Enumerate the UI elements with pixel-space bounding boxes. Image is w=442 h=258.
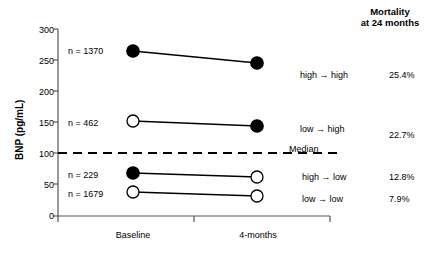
marker-high-low-followup bbox=[251, 171, 263, 183]
y-tick-marks bbox=[53, 29, 58, 216]
line-low-low bbox=[133, 192, 257, 196]
marker-high-high-followup bbox=[251, 57, 263, 69]
line-high-low bbox=[133, 173, 257, 177]
series-lines bbox=[133, 51, 257, 196]
marker-low-high-baseline bbox=[127, 115, 139, 127]
marker-high-low-baseline bbox=[127, 167, 139, 179]
line-low-high bbox=[133, 121, 257, 126]
plot-area bbox=[0, 0, 442, 258]
chart-figure: Mortality at 24 months BNP (pg/mL) 300 2… bbox=[0, 0, 442, 258]
marker-low-low-followup bbox=[251, 190, 263, 202]
marker-low-high-followup bbox=[251, 120, 263, 132]
marker-high-high-baseline bbox=[127, 45, 139, 57]
x-tick-marks bbox=[58, 216, 330, 222]
line-high-high bbox=[133, 51, 257, 63]
marker-low-low-baseline bbox=[127, 186, 139, 198]
